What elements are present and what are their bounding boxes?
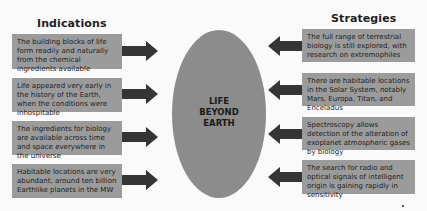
center-label-line-1: LIFE: [172, 96, 266, 107]
indications-heading: Indications: [37, 17, 107, 30]
center-label-line-2: BEYOND: [172, 107, 266, 118]
right-arrow-icon: [122, 84, 158, 104]
strategy-text-4: The search for radio and optical signals…: [307, 164, 403, 199]
indication-box-4: Habitable locations are very abundant, a…: [12, 164, 122, 198]
indication-text-4: Habitable locations are very abundant, a…: [17, 168, 116, 194]
right-arrow-icon: [122, 127, 158, 147]
indication-box-1: The building blocks of life form readily…: [12, 34, 122, 69]
indication-text-1: The building blocks of life form readily…: [17, 38, 108, 73]
right-arrow-icon: [122, 41, 158, 61]
strategy-text-1: The full range of terrestrial biology is…: [307, 33, 407, 59]
strategy-box-2: There are habitable locations in the Sol…: [302, 73, 415, 106]
left-arrow-icon: [268, 36, 304, 56]
indication-text-3: The ingredients for biology are availabl…: [17, 125, 111, 160]
indication-box-3: The ingredients for biology are availabl…: [12, 121, 122, 155]
left-arrow-icon: [268, 167, 304, 187]
indication-text-2: Life appeared very early in the history …: [17, 82, 111, 117]
strategy-text-3: Spectroscopy allows detection of the alt…: [307, 121, 410, 156]
strategy-box-3: Spectroscopy allows detection of the alt…: [302, 117, 415, 150]
indication-box-2: Life appeared very early in the history …: [12, 78, 122, 112]
center-label: LIFE BEYOND EARTH: [172, 96, 266, 129]
left-arrow-icon: [268, 80, 304, 100]
stray-mark: [402, 205, 404, 207]
right-arrow-icon: [122, 170, 158, 190]
strategy-text-2: There are habitable locations in the Sol…: [307, 77, 409, 112]
strategy-box-4: The search for radio and optical signals…: [302, 160, 415, 194]
left-arrow-icon: [268, 124, 304, 144]
center-label-line-3: EARTH: [172, 118, 266, 129]
strategies-heading: Strategies: [331, 12, 396, 25]
strategy-box-1: The full range of terrestrial biology is…: [302, 29, 415, 62]
